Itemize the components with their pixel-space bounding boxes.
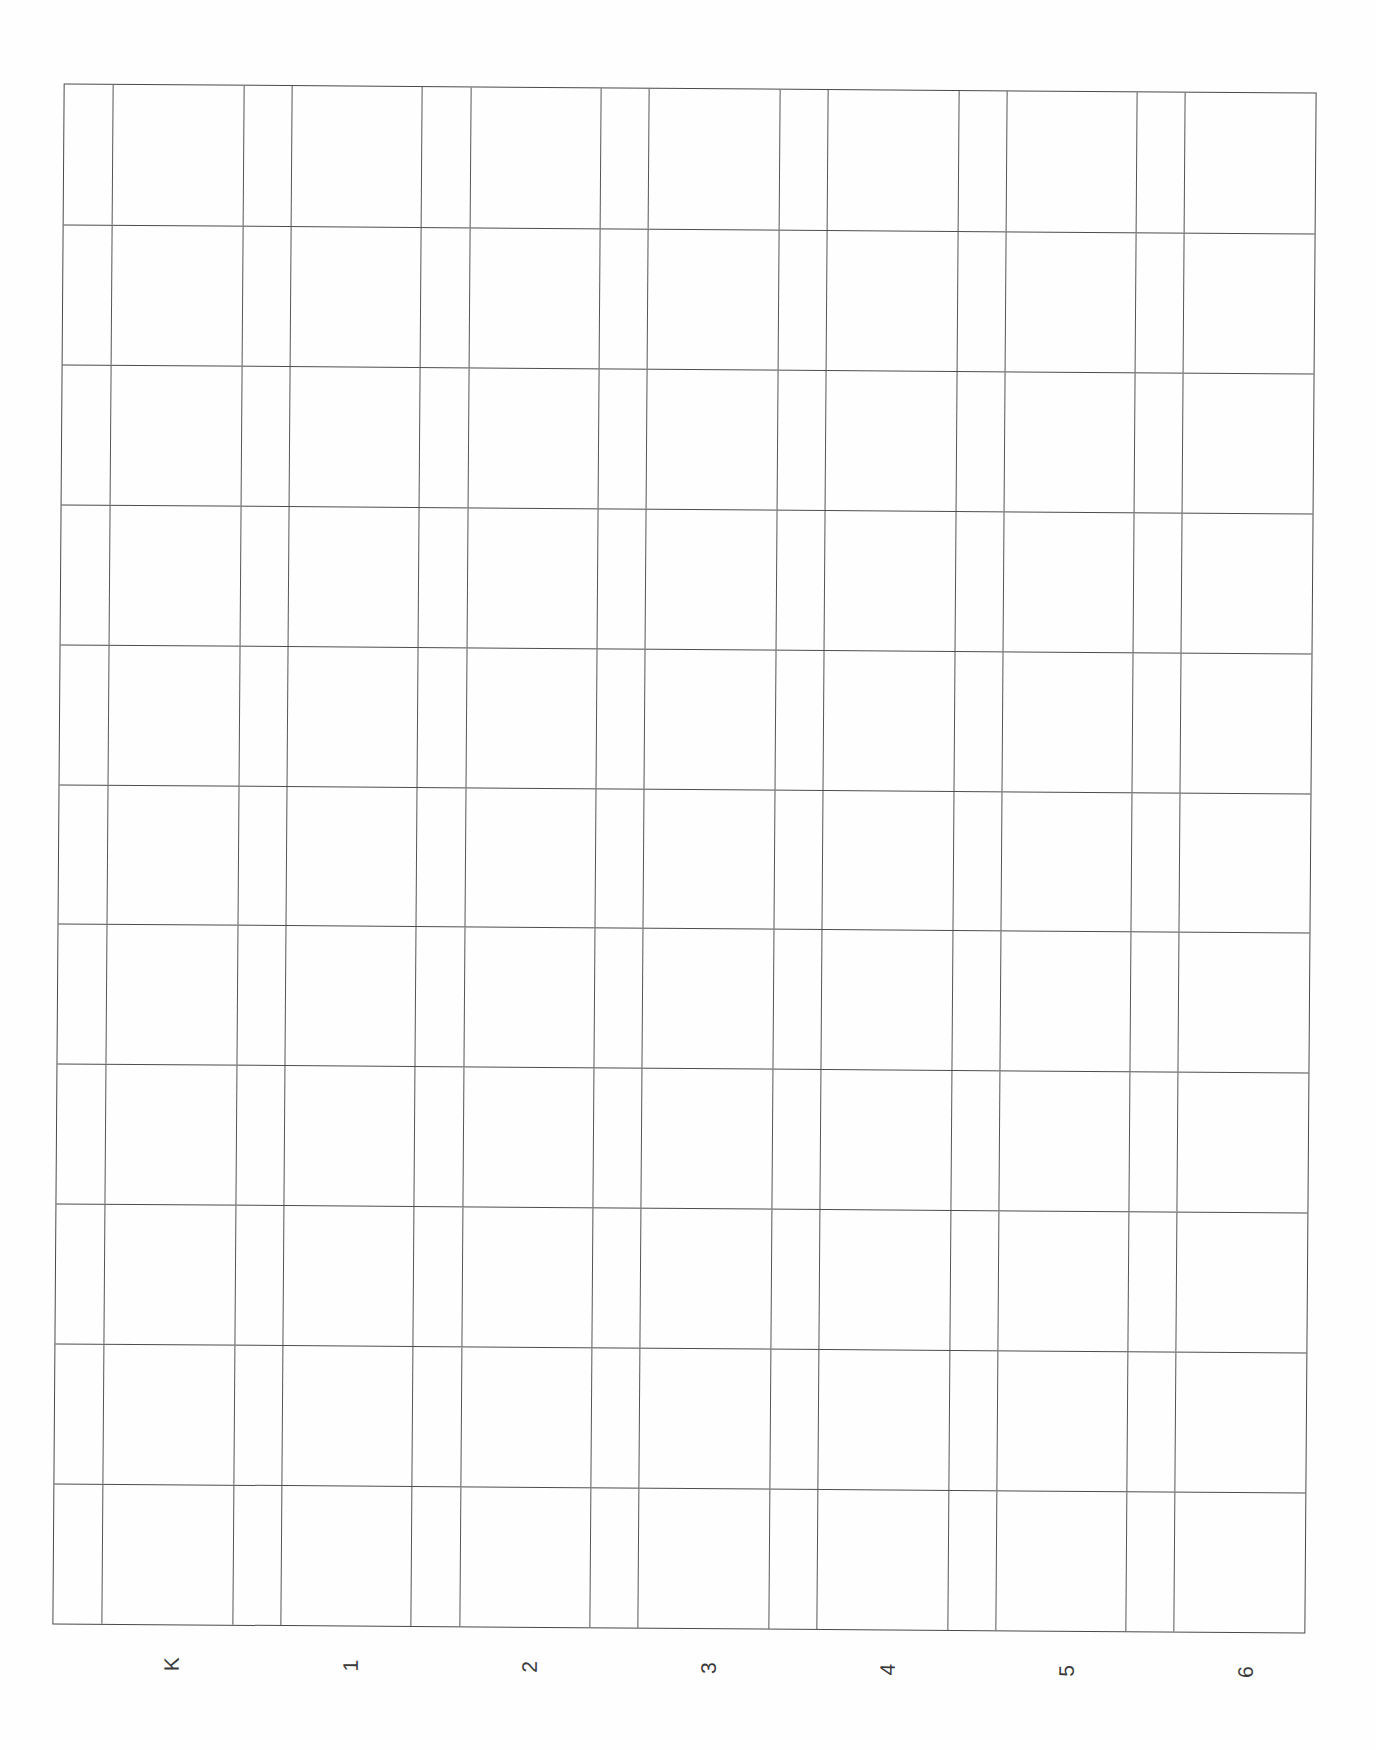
grid-cell-wide (1174, 1493, 1306, 1633)
grid-cell-narrow (241, 227, 290, 366)
label-slot-2: 2 (464, 1646, 595, 1687)
grid-cell-narrow (414, 1067, 463, 1206)
grid-cell-narrow (60, 645, 109, 784)
grid-cell-wide (1005, 91, 1137, 232)
grid-cell-narrow (63, 225, 112, 364)
grid-cell-narrow (950, 1071, 999, 1210)
grid-cell-wide (1180, 653, 1312, 793)
grid-cell-narrow (591, 1349, 640, 1488)
label-spacer (237, 1645, 286, 1685)
grid-cell-wide (105, 1065, 237, 1205)
grid-cell-narrow (57, 925, 106, 1064)
grid-row (56, 1064, 1308, 1213)
grid-cell-wide (1176, 1213, 1308, 1353)
grid-cell-wide (467, 368, 599, 508)
grid-row (62, 364, 1314, 513)
grid-cell-narrow (411, 1487, 460, 1626)
grid-cell-narrow (61, 505, 110, 644)
grid-cell-wide (638, 1489, 770, 1629)
grid-cell-wide (291, 86, 423, 227)
grid-cell-narrow (778, 90, 827, 230)
grid-cell-wide (822, 791, 954, 931)
grid-row (64, 84, 1316, 233)
grid-cell-narrow (776, 370, 825, 509)
label-slot-1: 1 (285, 1645, 416, 1686)
grid-cell-narrow (1133, 513, 1182, 652)
label-spacer (1132, 1651, 1181, 1691)
grid-cell-wide (1001, 652, 1133, 792)
grid-cell-wide (646, 370, 778, 510)
grid-cell-narrow (412, 1347, 461, 1486)
grid-cell-narrow (772, 930, 821, 1069)
grid-cell-narrow (1128, 1213, 1177, 1352)
column-label-1: 1 (338, 1660, 362, 1672)
label-slot-4: 4 (822, 1649, 953, 1690)
grid-frame (52, 83, 1316, 1633)
grid-cell-narrow (770, 1210, 819, 1349)
grid-cell-wide (109, 505, 241, 645)
blank-grid (52, 83, 1316, 1633)
grid-row (55, 1204, 1307, 1353)
grid-cell-narrow (55, 1205, 104, 1344)
grid-cell-wide (286, 647, 418, 787)
grid-cell-wide (997, 1212, 1129, 1352)
grid-cell-wide (1000, 792, 1132, 932)
grid-cell-wide (1183, 234, 1315, 374)
grid-cell-wide (102, 1485, 234, 1625)
grid-cell-wide (639, 1349, 771, 1489)
grid-cell-narrow (417, 648, 466, 787)
grid-cell-wide (816, 1490, 948, 1630)
grid-cell-narrow (235, 1066, 284, 1205)
grid-cell-wide (1004, 232, 1136, 372)
grid-cell-narrow (596, 649, 645, 788)
grid-cell-wide (648, 89, 780, 230)
grid-cell-narrow (233, 1346, 282, 1485)
grid-cell-narrow (420, 228, 469, 367)
grid-cell-narrow (418, 508, 467, 647)
grid-cell-wide (285, 787, 417, 927)
label-slot-5: 5 (1001, 1650, 1132, 1691)
grid-cell-narrow (1136, 92, 1185, 232)
grid-cell-wide (112, 85, 244, 226)
grid-cell-narrow (64, 84, 113, 224)
grid-cell-narrow (54, 1345, 103, 1484)
grid-cell-wide (282, 1206, 414, 1346)
grid-cell-wide (283, 1066, 415, 1206)
grid-cell-narrow (594, 929, 643, 1068)
grid-cell-wide (824, 511, 956, 651)
grid-cell-wide (106, 925, 238, 1065)
grid-cell-narrow (600, 88, 649, 228)
grid-cell-narrow (59, 785, 108, 924)
grid-cell-narrow (1129, 1073, 1178, 1212)
grid-cell-wide (640, 1209, 772, 1349)
grid-cell-wide (465, 648, 597, 788)
grid-cell-narrow (595, 789, 644, 928)
grid-cell-wide (647, 230, 779, 370)
grid-cell-narrow (768, 1490, 817, 1629)
grid-cell-narrow (957, 91, 1006, 231)
grid-cell-wide (1184, 93, 1316, 234)
grid-cell-wide (644, 649, 776, 789)
grid-cell-wide (290, 227, 422, 367)
grid-row (53, 1483, 1305, 1632)
grid-cell-narrow (242, 86, 291, 226)
grid-cell-wide (284, 927, 416, 1067)
grid-cell-narrow (769, 1350, 818, 1489)
column-label-6: 6 (1233, 1666, 1257, 1678)
grid-cell-wide (1003, 372, 1135, 512)
grid-row (59, 784, 1311, 933)
grid-cell-wide (461, 1208, 593, 1348)
grid-cell-narrow (949, 1211, 998, 1350)
grid-cell-narrow (954, 512, 1003, 651)
grid-row (63, 224, 1315, 373)
grid-cell-narrow (239, 506, 288, 645)
column-label-3: 3 (696, 1662, 720, 1674)
column-labels: K 1 2 3 4 5 6 (58, 1643, 1311, 1692)
grid-cell-wide (999, 932, 1131, 1072)
grid-row (54, 1344, 1306, 1493)
grid-cell-narrow (774, 650, 823, 789)
grid-cell-wide (823, 651, 955, 791)
grid-cell-wide (108, 645, 240, 785)
grid-cell-wide (107, 785, 239, 925)
column-label-5: 5 (1054, 1665, 1078, 1677)
